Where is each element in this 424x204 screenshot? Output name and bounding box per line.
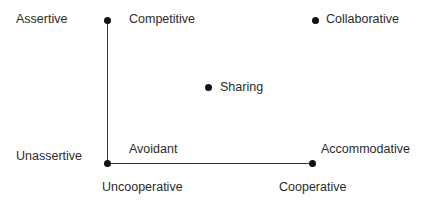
- label-uncooperative: Uncooperative: [102, 180, 183, 194]
- label-avoidant: Avoidant: [129, 142, 177, 156]
- label-competitive: Competitive: [129, 12, 195, 26]
- dot-collaborative: [312, 17, 319, 24]
- dot-sharing: [205, 84, 212, 91]
- label-assertive: Assertive: [16, 12, 67, 26]
- dot-accommodative: [309, 160, 316, 167]
- label-sharing: Sharing: [220, 80, 263, 94]
- axis-vertical-line: [107, 20, 108, 163]
- label-collaborative: Collaborative: [326, 12, 399, 26]
- label-accommodative: Accommodative: [321, 142, 410, 156]
- label-unassertive: Unassertive: [16, 149, 82, 163]
- label-cooperative: Cooperative: [279, 180, 346, 194]
- axis-horizontal-line: [107, 163, 312, 164]
- dot-competitive: [104, 17, 111, 24]
- dot-avoidant: [104, 160, 111, 167]
